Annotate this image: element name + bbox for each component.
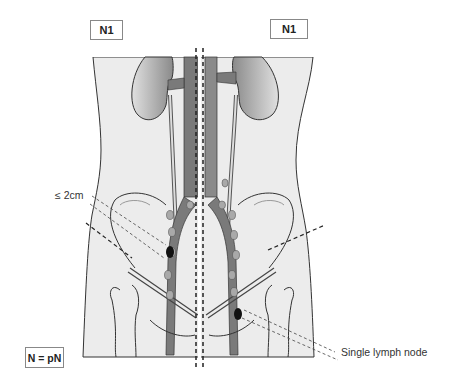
- stage-label-right: N1: [270, 19, 308, 39]
- lymph-node-annotation: Single lymph node: [341, 346, 427, 358]
- legend-label: N = pN: [25, 347, 64, 368]
- n1-staging-diagram: N1 N1 ≤ 2cm Single lymph node N = pN: [0, 0, 455, 377]
- positive-node-left: [166, 246, 174, 258]
- size-annotation: ≤ 2cm: [55, 189, 84, 201]
- stage-label-left: N1: [90, 20, 123, 40]
- positive-node-right: [234, 308, 242, 320]
